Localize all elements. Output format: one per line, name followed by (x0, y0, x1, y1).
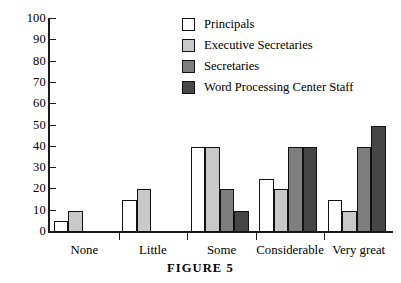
bar (342, 211, 357, 232)
legend-item-label: Principals (204, 18, 254, 31)
bar (205, 147, 220, 232)
x-axis-label: Very great (312, 243, 401, 257)
bar (54, 221, 69, 232)
bar-group (50, 18, 119, 232)
chart-legend: PrincipalsExecutive SecretariesSecretari… (182, 14, 397, 98)
bar (288, 147, 303, 232)
x-axis-tick (324, 233, 325, 240)
legend-item: Executive Secretaries (182, 35, 397, 56)
bar (328, 200, 343, 232)
bar (303, 147, 318, 232)
y-axis-tick-label: 20 (6, 182, 46, 195)
legend-swatch-icon (182, 39, 195, 52)
figure-caption: FIGURE 5 (0, 261, 401, 276)
y-axis-tick-label: 50 (6, 119, 46, 132)
y-axis-tick-label: 100 (6, 12, 46, 25)
y-axis-tick-label: 10 (6, 204, 46, 217)
y-axis-tick-label: 0 (6, 225, 46, 238)
legend-item-label: Secretaries (204, 60, 259, 73)
y-axis-tick-label: 30 (6, 161, 46, 174)
legend-swatch-icon (182, 81, 195, 94)
y-axis-tick-label: 40 (6, 140, 46, 153)
figure-container: 0102030405060708090100 NoneLittleSomeCon… (0, 0, 401, 283)
legend-item-label: Word Processing Center Staff (204, 81, 354, 94)
y-axis-tick-label: 60 (6, 97, 46, 110)
legend-swatch-icon (182, 60, 195, 73)
bar (191, 147, 206, 232)
bar (357, 147, 372, 232)
legend-item: Word Processing Center Staff (182, 77, 397, 98)
legend-item: Principals (182, 14, 397, 35)
legend-item-label: Executive Secretaries (204, 39, 313, 52)
bar (68, 211, 83, 232)
x-axis-tick (119, 233, 120, 240)
bar (137, 189, 152, 232)
legend-item: Secretaries (182, 56, 397, 77)
y-axis-tick-label: 70 (6, 76, 46, 89)
bar (122, 200, 137, 232)
bar (371, 126, 386, 233)
bar (274, 189, 289, 232)
y-axis-tick-label: 80 (6, 55, 46, 68)
legend-swatch-icon (182, 18, 195, 31)
x-axis-tick (256, 233, 257, 240)
bar (259, 179, 274, 232)
x-axis-tick (187, 233, 188, 240)
bar-group (119, 18, 188, 232)
y-axis-tick-label: 90 (6, 33, 46, 46)
bar (234, 211, 249, 232)
bar (220, 189, 235, 232)
